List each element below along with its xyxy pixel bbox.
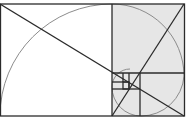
golden-spiral-diagram xyxy=(0,0,188,119)
